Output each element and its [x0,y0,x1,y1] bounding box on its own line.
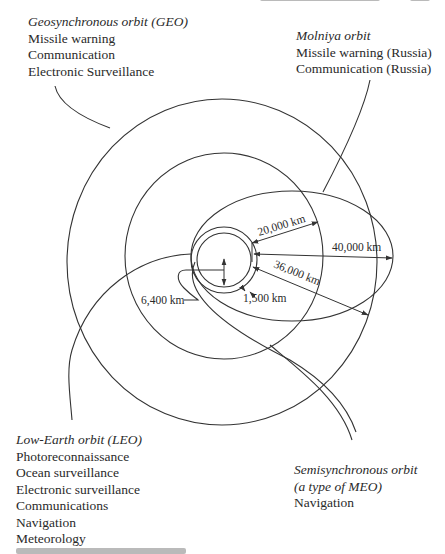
leo-mission: Navigation [16,515,142,532]
earth-radius-label: 6,400 km [141,294,185,307]
leo-mission: Electronic surveillance [16,482,142,499]
molniya-label: Molniya orbit Missile warning (Russia) C… [296,28,432,78]
leo-mission: Ocean surveillance [16,465,142,482]
leo-inclined-orbit-arc-lower [192,262,356,432]
geo-label: Geosynchronous orbit (GEO) Missile warni… [28,14,188,80]
meo-orbit-circle [125,153,323,359]
molniya-mission: Communication (Russia) [296,61,432,78]
geo-title: Geosynchronous orbit (GEO) [28,14,188,31]
meo-title-line1: Semisynchronous orbit [294,462,418,479]
molniya-orbit-ellipse [191,191,393,321]
geo-orbit-circle [67,99,377,425]
leo-mission: Meteorology [16,531,142,548]
leo-title: Low-Earth orbit (LEO) [16,432,142,449]
meo-leader-line [270,345,352,440]
geo-leader-line [55,86,110,128]
molniya-mission: Missile warning (Russia) [296,45,432,62]
meo-altitude-label: 20,000 km [256,212,307,239]
leo-mission: Communications [16,498,142,515]
geo-altitude-label: 36,000 km [272,258,323,289]
molniya-title: Molniya orbit [296,28,432,45]
molniya-leader-line [323,80,370,192]
geo-mission: Electronic Surveillance [28,64,188,81]
meo-mission: Navigation [294,495,418,512]
geo-mission: Communication [28,47,188,64]
leo-altitude-label: 1,500 km [243,292,287,305]
meo-title-line2: (a type of MEO) [294,479,418,496]
leo-mission: Photoreconnaissance [16,449,142,466]
molniya-apogee-label: 40,000 km [332,241,381,254]
geo-mission: Missile warning [28,31,188,48]
meo-label: Semisynchronous orbit (a type of MEO) Na… [294,462,418,512]
leo-label: Low-Earth orbit (LEO) Photoreconnaissanc… [16,432,142,548]
leo-inclined-orbit-arc [69,254,191,420]
